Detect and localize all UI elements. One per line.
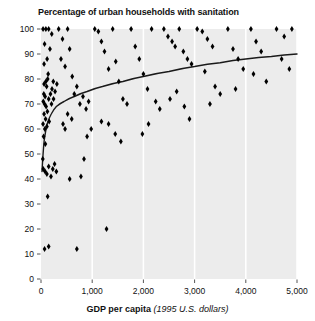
svg-text:80: 80 xyxy=(25,74,35,84)
svg-text:1,000: 1,000 xyxy=(82,286,104,296)
svg-text:20: 20 xyxy=(25,224,35,234)
svg-text:5,000: 5,000 xyxy=(286,286,308,296)
x-axis-label-units: (1995 U.S. dollars) xyxy=(153,304,228,314)
plot-background xyxy=(41,29,297,279)
x-axis-ticks xyxy=(41,280,297,284)
svg-text:100: 100 xyxy=(20,24,34,34)
svg-text:40: 40 xyxy=(25,174,35,184)
svg-text:3,000: 3,000 xyxy=(184,286,206,296)
svg-text:70: 70 xyxy=(25,99,35,109)
svg-text:60: 60 xyxy=(25,124,35,134)
svg-text:0: 0 xyxy=(39,286,44,296)
svg-text:2,000: 2,000 xyxy=(133,286,155,296)
svg-text:50: 50 xyxy=(25,149,35,159)
svg-text:30: 30 xyxy=(25,199,35,209)
y-axis-ticks xyxy=(37,29,41,279)
x-axis-label: GDP per capita (1995 U.S. dollars) xyxy=(0,304,315,314)
svg-text:4,000: 4,000 xyxy=(235,286,257,296)
x-axis-label-main: GDP per capita xyxy=(87,304,151,314)
chart-container: Percentage of urban households with sani… xyxy=(0,0,315,321)
scatter-plot: 0102030405060708090100 01,0002,0003,0004… xyxy=(0,0,315,321)
svg-text:90: 90 xyxy=(25,49,35,59)
svg-text:0: 0 xyxy=(29,274,34,284)
svg-text:10: 10 xyxy=(25,249,35,259)
x-axis-tick-labels: 01,0002,0003,0004,0005,000 xyxy=(39,286,308,296)
y-axis-tick-labels: 0102030405060708090100 xyxy=(20,24,34,284)
